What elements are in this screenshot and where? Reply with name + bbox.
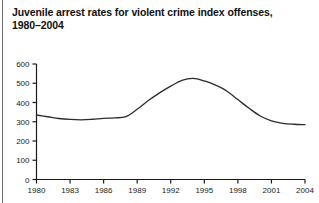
- x-axis-tick-label: 1980: [28, 186, 46, 195]
- x-axis-tick-label: 1989: [128, 186, 146, 195]
- x-axis-tick-label: 1992: [162, 186, 180, 195]
- y-axis-tick-label: 600: [16, 60, 30, 69]
- x-axis-tick-label: 1983: [61, 186, 79, 195]
- x-axis-tick-label: 1998: [229, 186, 247, 195]
- data-series-line: [37, 78, 306, 124]
- y-axis-tick-label: 500: [16, 79, 30, 88]
- y-axis-tick-label: 400: [16, 99, 30, 108]
- x-axis-tick-label: 2001: [263, 186, 281, 195]
- line-chart-plot: 0100200300400500600 19801983198619891992…: [0, 0, 319, 203]
- y-axis-tick-label: 200: [16, 137, 30, 146]
- x-axis-tick-label: 1995: [195, 186, 213, 195]
- y-axis-tick-label: 100: [16, 156, 30, 165]
- x-axis-tick-label: 2004: [296, 186, 314, 195]
- x-axis-tick-label: 1986: [95, 186, 113, 195]
- y-axis-tick-labels: 0100200300400500600: [16, 60, 30, 185]
- y-axis-tick-label: 300: [16, 118, 30, 127]
- x-axis-tick-labels: 198019831986198919921995199820012004: [28, 186, 315, 195]
- y-axis-tick-label: 0: [25, 176, 30, 185]
- figure-container: Juvenile arrest rates for violent crime …: [0, 0, 319, 203]
- x-axis-ticks: [37, 180, 306, 184]
